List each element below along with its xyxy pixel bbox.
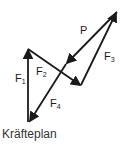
caption: Kräfteplan: [2, 127, 57, 141]
label-F4: F4: [50, 98, 61, 110]
label-F3: F3: [104, 51, 115, 63]
label-P: P: [80, 25, 87, 36]
label-F1: F1: [15, 73, 26, 85]
label-F2: F2: [36, 66, 47, 78]
